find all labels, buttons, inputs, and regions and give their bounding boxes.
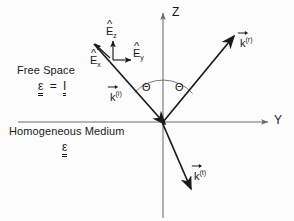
- z-axis-label: Z: [172, 6, 179, 18]
- e-symbol-with-hat: ^E: [106, 26, 113, 37]
- epsilon-tensor-symbol: ε: [38, 80, 43, 92]
- epsilon-tensor-symbol-lower: ε: [62, 141, 67, 153]
- theta-incident-label: Θ: [142, 82, 151, 93]
- hat-accent-icon: ^: [107, 19, 112, 30]
- unit-vector-ez-label: ^Ez: [106, 26, 117, 39]
- k-reflected-label: k(r): [240, 36, 253, 49]
- vector-arrow-icon: [191, 163, 202, 169]
- k-incident-label: k(i): [110, 90, 122, 103]
- k-transmitted-label: k(t): [194, 169, 206, 182]
- theta-reflected-label: Θ: [175, 82, 184, 93]
- upper-medium-name: Free Space: [17, 65, 75, 76]
- incident-ray: [94, 44, 165, 124]
- k-symbol-with-vector-arrow: k: [110, 92, 116, 103]
- k-symbol-with-vector-arrow: k: [240, 38, 246, 49]
- vector-arrow-icon: [107, 84, 118, 90]
- unit-vector-ex-label: ^Ex: [90, 55, 101, 68]
- equals-sign: =: [50, 79, 57, 93]
- lower-medium-permittivity: ε: [62, 141, 67, 153]
- k-symbol-with-vector-arrow: k: [194, 171, 200, 182]
- reflected-ray: [163, 36, 234, 122]
- upper-medium-permittivity: ε = I: [38, 80, 66, 92]
- y-axis-label: Y: [274, 114, 282, 126]
- unit-vector-ey-label: ^Ey: [133, 48, 144, 61]
- e-symbol-with-hat: ^E: [133, 48, 140, 59]
- identity-tensor-symbol: I: [63, 80, 66, 92]
- hat-accent-icon: ^: [91, 48, 96, 59]
- e-symbol-with-hat: ^E: [90, 55, 97, 66]
- diagram-vector-graphics: [0, 0, 294, 221]
- vector-arrow-icon: [237, 30, 248, 36]
- hat-accent-icon: ^: [134, 41, 139, 52]
- transmitted-ray: [162, 122, 191, 189]
- lower-medium-name: Homogeneous Medium: [9, 126, 125, 137]
- figure-canvas: Z Y Free Space ε = I Homogeneous Medium …: [0, 0, 294, 221]
